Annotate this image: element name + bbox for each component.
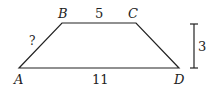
vertex-label-d: D [173,72,185,87]
vertex-label-a: A [13,72,23,87]
trapezoid-figure: B 5 C ? 3 A 11 D [0,0,212,87]
vertex-label-c: C [128,6,138,21]
vertex-label-b: B [57,6,68,21]
height-marker [190,24,198,68]
side-label-top: 5 [95,6,103,21]
side-label-bottom: 11 [92,72,109,87]
height-label: 3 [198,39,206,54]
trapezoid-svg: B 5 C ? 3 A 11 D [0,0,212,87]
trapezoid-shape [19,23,179,68]
side-label-left: ? [29,34,35,48]
